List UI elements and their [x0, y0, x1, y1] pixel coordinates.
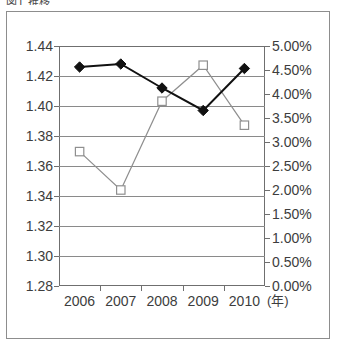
data-point-square — [158, 97, 166, 105]
data-point-square — [117, 186, 125, 194]
series-layer — [7, 12, 331, 340]
data-point-diamond — [116, 59, 126, 69]
figure-border: 1.281.301.321.341.361.381.401.421.44 0.0… — [6, 11, 330, 339]
data-point-square — [199, 61, 207, 69]
data-point-diamond — [157, 83, 167, 93]
clipped-caption: 図1 推移 — [6, 0, 126, 5]
data-point-square — [240, 121, 248, 129]
data-point-diamond — [74, 62, 84, 72]
data-point-square — [75, 147, 83, 155]
chart-area: 1.281.301.321.341.361.381.401.421.44 0.0… — [7, 12, 331, 340]
series-diamond-group — [74, 59, 249, 116]
series-square-group — [75, 61, 248, 194]
